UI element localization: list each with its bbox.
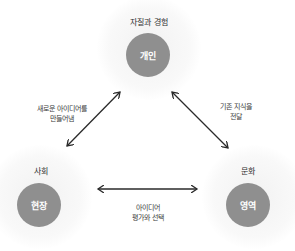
- node-field: 현장: [17, 183, 61, 227]
- group-label-left: 사회: [34, 165, 48, 176]
- edge-label-left-right: 아이디어 평가와 선택: [132, 203, 164, 223]
- edge-label-left-right-line2: 평가와 선택: [132, 213, 164, 223]
- node-domain: 영역: [226, 183, 270, 227]
- edge-label-left-top-line1: 새로운 아이디어를: [37, 104, 87, 114]
- node-individual: 개인: [126, 33, 170, 77]
- edge-label-top-right: 기존 지식을 전달: [220, 102, 252, 122]
- node-label-field: 현장: [31, 199, 48, 212]
- edge-label-left-top: 새로운 아이디어를 만들어냄: [37, 104, 87, 124]
- edge-label-left-top-line2: 만들어냄: [37, 114, 87, 124]
- node-label-domain: 영역: [240, 199, 257, 212]
- edge-label-left-right-line1: 아이디어: [132, 203, 164, 213]
- node-label-individual: 개인: [140, 49, 157, 62]
- group-label-right: 문화: [241, 165, 255, 176]
- group-label-top: 자질과 경험: [130, 16, 168, 27]
- edge-label-top-right-line2: 전달: [220, 112, 252, 122]
- edge-label-top-right-line1: 기존 지식을: [220, 102, 252, 112]
